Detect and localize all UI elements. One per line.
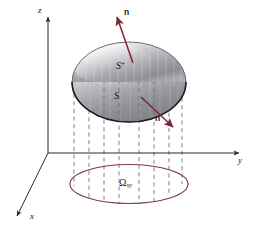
y-axis-label: y — [238, 156, 242, 165]
diagram-svg — [0, 0, 256, 232]
lower-normal-label: n — [155, 114, 160, 123]
x-axis — [17, 153, 48, 216]
x-axis-label: x — [30, 212, 34, 221]
z-axis-label: z — [38, 6, 42, 15]
region-subscript: xy — [126, 181, 132, 188]
surface-upper-superscript: + — [121, 60, 125, 68]
surface-upper-label: S+ — [116, 61, 125, 71]
upper-normal-label: n — [124, 8, 129, 17]
surface-lower-label: S — [114, 91, 119, 101]
projection-region-label: Ωxy — [119, 178, 132, 189]
figure-canvas: z y x S+ S n n Ωxy — [0, 0, 256, 232]
